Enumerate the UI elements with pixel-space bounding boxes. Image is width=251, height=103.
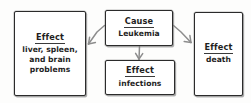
node-effect-death-body: death <box>206 54 231 65</box>
node-effect-death-head: Effect <box>204 43 234 54</box>
node-effect-death[interactable]: Effect death <box>194 12 243 96</box>
node-cause[interactable]: Cause Leukemia <box>105 10 173 46</box>
node-effect-infections-body: infections <box>119 77 162 88</box>
arrow-cause-to-infections <box>136 47 143 60</box>
node-effect-organs-body: liver, spleen, and brain problems <box>22 44 77 74</box>
diagram-canvas: Effect liver, spleen, and brain problems… <box>0 0 251 103</box>
arrow-cause-to-organs <box>89 26 105 45</box>
arrow-cause-to-death <box>174 26 192 43</box>
node-effect-infections-head: Effect <box>125 66 155 77</box>
node-effect-organs-head: Effect <box>35 33 65 44</box>
node-cause-body: Leukemia <box>118 28 159 39</box>
node-cause-head: Cause <box>124 17 155 28</box>
node-effect-organs[interactable]: Effect liver, spleen, and brain problems <box>14 11 86 96</box>
node-effect-infections[interactable]: Effect infections <box>105 60 175 95</box>
